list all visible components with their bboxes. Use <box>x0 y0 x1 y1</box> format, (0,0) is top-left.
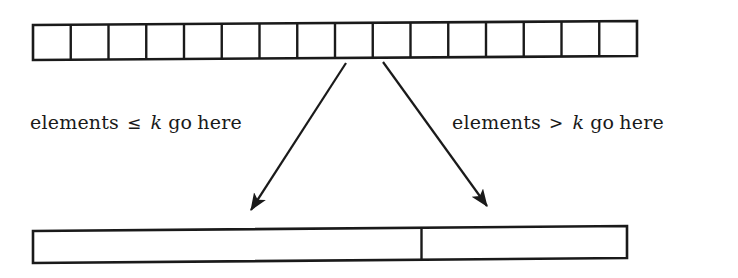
partition-arrows <box>251 62 487 210</box>
arrow-to-left-partition <box>251 63 346 210</box>
partition-figure: elements≤kgohere elements>kgohere <box>0 0 738 278</box>
arrow-to-right-partition <box>383 62 487 206</box>
partitioned-array-outline <box>33 226 627 263</box>
figure-canvas <box>0 0 738 278</box>
unpartitioned-array <box>33 21 637 60</box>
partitioned-array <box>33 226 627 263</box>
